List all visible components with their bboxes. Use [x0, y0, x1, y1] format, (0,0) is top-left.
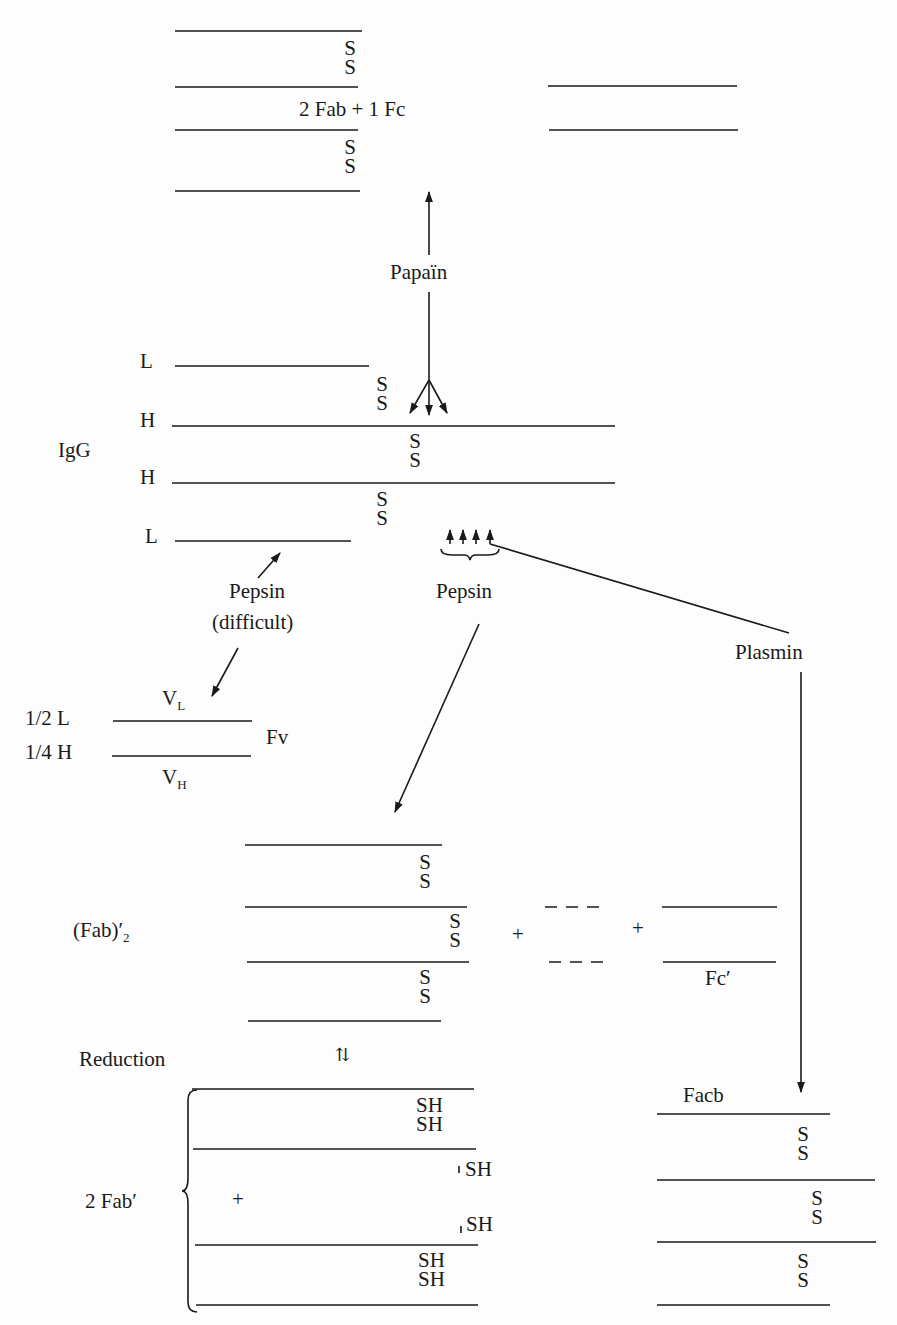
quarter-heavy-label: 1/4 H [25, 742, 72, 763]
chain-label-heavy-1: H [140, 410, 155, 431]
plasmin-label: Plasmin [735, 642, 803, 663]
reduction-label: Reduction [79, 1049, 165, 1070]
fv-label: Fv [266, 727, 288, 748]
disulfide-bond-lh-2: SS [374, 490, 390, 528]
pepsin-difficult-label-line1: Pepsin [229, 581, 285, 602]
disulfide-bond: SS [795, 1125, 811, 1163]
facb-label: Facb [683, 1085, 724, 1106]
thiol: SH [466, 1215, 493, 1234]
disulfide-bond: SS [447, 912, 463, 950]
pepsin-difficult-label-line2: (difficult) [212, 612, 293, 633]
equilibrium-arrows-icon: ⇅ [335, 1046, 350, 1064]
vl-label: VL [162, 688, 185, 712]
pepsin-label: Pepsin [436, 581, 492, 602]
disulfide-bond-hh: SS [407, 432, 423, 470]
thiol-pair: SHSH [418, 1251, 445, 1289]
fab2-label: (Fab)′2 [73, 920, 130, 944]
disulfide-bond-lh-1: SS [374, 375, 390, 413]
disulfide-bond: SS [417, 968, 433, 1006]
plus-sign: + [232, 1189, 244, 1210]
plus-sign: + [632, 918, 644, 939]
papain-label: Papaïn [390, 262, 447, 283]
half-light-label: 1/2 L [25, 708, 70, 729]
thiol: SH [465, 1160, 492, 1179]
thiol-pair: SHSH [416, 1096, 443, 1134]
chain-label-light-1: L [140, 351, 153, 372]
papain-products-label: 2 Fab + 1 Fc [299, 99, 405, 120]
igg-fragmentation-diagram: SS 2 Fab + 1 Fc SS Papaïn L H H L IgG SS… [0, 0, 897, 1325]
vh-label: VH [162, 767, 187, 791]
chain-label-heavy-2: H [140, 467, 155, 488]
disulfide-bond: SS [809, 1189, 825, 1227]
disulfide-bond: SS [342, 138, 358, 176]
fc-prime-label: Fc′ [705, 968, 731, 989]
chain-label-light-2: L [145, 526, 158, 547]
fab-prime-label: 2 Fab′ [85, 1191, 137, 1212]
plus-sign: + [512, 924, 524, 945]
igg-label: IgG [58, 440, 91, 461]
disulfide-bond: SS [342, 39, 358, 77]
disulfide-bond: SS [417, 853, 433, 891]
disulfide-bond: SS [795, 1252, 811, 1290]
